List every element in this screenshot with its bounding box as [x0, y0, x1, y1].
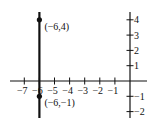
x-tick-label: −2: [92, 85, 103, 96]
y-tick-label: −2: [134, 106, 145, 117]
x-tick-label: −4: [62, 85, 73, 96]
tick-labels: −7−6−5−4−3−2−14321−1−2: [17, 14, 145, 117]
point-marker: [37, 94, 42, 99]
y-tick-label: 3: [134, 30, 139, 41]
axes: [10, 12, 147, 118]
x-tick-label: −3: [77, 85, 88, 96]
y-tick-label: 4: [134, 14, 139, 25]
point-label: (−6,4): [44, 21, 69, 33]
point-marker: [37, 17, 42, 22]
y-tick-label: 2: [134, 45, 139, 56]
x-tick-label: −5: [47, 85, 58, 96]
point-label: (−6,−1): [44, 97, 74, 109]
x-tick-label: −6: [32, 85, 43, 96]
x-tick-label: −1: [108, 85, 119, 96]
x-tick-label: −7: [17, 85, 28, 96]
y-tick-label: −1: [134, 91, 145, 102]
y-tick-label: 1: [134, 60, 139, 71]
coordinate-plot: −7−6−5−4−3−2−14321−1−2 (−6,4)(−6,−1): [0, 0, 152, 123]
